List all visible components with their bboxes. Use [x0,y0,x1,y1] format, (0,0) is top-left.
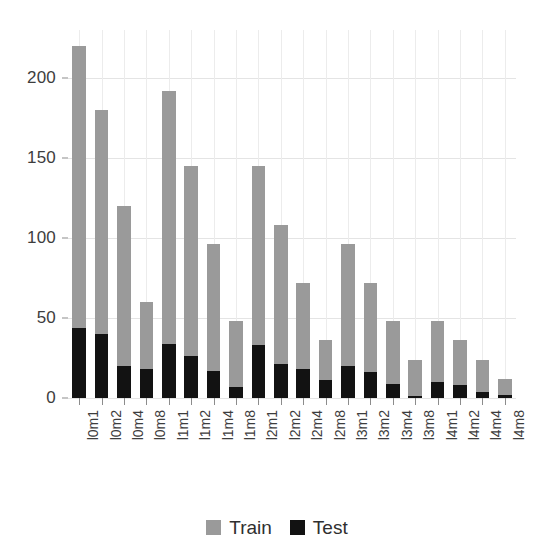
bar-segment-train-l4m1[interactable] [431,321,444,382]
y-tick-label-200: 200 [27,68,56,88]
x-tick-label-l0m1: l0m1 [85,410,101,440]
bar-segment-train-l3m2[interactable] [364,283,377,373]
x-tick-label-l4m2: l4m2 [466,410,482,440]
bar-segment-test-l0m2[interactable] [95,334,108,398]
bar-l1m2[interactable] [184,166,197,398]
bar-l0m4[interactable] [117,206,130,398]
legend-item-test[interactable]: Test [290,518,348,537]
bar-segment-test-l2m1[interactable] [252,345,265,398]
x-tick-label-l1m8: l1m8 [242,410,258,440]
x-tick-label-l0m2: l0m2 [108,410,124,440]
bar-l1m4[interactable] [207,244,220,398]
y-axis: 050100150200 [0,30,68,398]
bar-l2m8[interactable] [319,340,332,398]
bar-segment-train-l3m8[interactable] [408,360,421,397]
x-tick-mark-l3m2 [370,398,371,405]
bar-l0m2[interactable] [95,110,108,398]
y-tick-label-150: 150 [27,148,56,168]
bar-segment-test-l3m2[interactable] [364,372,377,398]
bar-segment-train-l4m4[interactable] [476,360,489,392]
bar-segment-train-l2m1[interactable] [252,166,265,345]
bar-segment-train-l1m2[interactable] [184,166,197,356]
bar-segment-train-l0m1[interactable] [72,46,85,328]
x-tick-label-l2m1: l2m1 [264,410,280,440]
bar-l3m8[interactable] [408,360,421,398]
x-tick-mark-l3m8 [415,398,416,405]
bar-l1m1[interactable] [162,91,175,398]
bar-segment-train-l3m1[interactable] [341,244,354,366]
bar-segment-train-l1m8[interactable] [229,321,242,387]
y-tick-label-50: 50 [37,308,56,328]
bar-l2m4[interactable] [296,283,309,398]
x-axis: l0m1l0m2l0m4l0m8l1m1l1m2l1m4l1m8l2m1l2m2… [68,398,516,508]
bar-segment-test-l2m4[interactable] [296,369,309,398]
x-tick-mark-l1m1 [169,398,170,405]
bar-segment-train-l3m4[interactable] [386,321,399,383]
x-tick-label-l1m2: l1m2 [197,410,213,440]
bar-segment-train-l2m8[interactable] [319,340,332,380]
plot-area [68,30,516,398]
bar-segment-test-l0m4[interactable] [117,366,130,398]
bar-segment-test-l0m8[interactable] [140,369,153,398]
bar-l0m1[interactable] [72,46,85,398]
x-tick-mark-l2m8 [326,398,327,405]
bar-l4m8[interactable] [498,379,511,398]
legend-label-train: Train [229,518,272,537]
bar-segment-test-l3m4[interactable] [386,384,399,398]
bar-l3m2[interactable] [364,283,377,398]
x-tick-label-l4m4: l4m4 [488,410,504,440]
x-tick-label-l1m1: l1m1 [175,410,191,440]
x-tick-mark-l0m4 [124,398,125,405]
x-tick-mark-l0m2 [102,398,103,405]
x-tick-mark-l3m1 [348,398,349,405]
x-tick-mark-l0m1 [79,398,80,405]
bar-segment-train-l1m4[interactable] [207,244,220,370]
bar-segment-test-l2m2[interactable] [274,364,287,398]
bar-l4m1[interactable] [431,321,444,398]
x-tick-mark-l2m1 [258,398,259,405]
bar-segment-train-l1m1[interactable] [162,91,175,344]
legend-item-train[interactable]: Train [206,518,272,537]
bar-segment-test-l4m1[interactable] [431,382,444,398]
bar-l2m2[interactable] [274,225,287,398]
x-tick-label-l4m1: l4m1 [444,410,460,440]
bar-l3m4[interactable] [386,321,399,398]
bar-segment-test-l3m1[interactable] [341,366,354,398]
x-tick-mark-l1m2 [191,398,192,405]
bar-l4m2[interactable] [453,340,466,398]
x-tick-label-l3m1: l3m1 [354,410,370,440]
x-tick-mark-l4m1 [438,398,439,405]
bar-l1m8[interactable] [229,321,242,398]
bar-segment-test-l1m4[interactable] [207,371,220,398]
stacked-bar-chart: 050100150200 l0m1l0m2l0m4l0m8l1m1l1m2l1m… [0,0,554,554]
bar-segment-test-l4m2[interactable] [453,385,466,398]
bar-l3m1[interactable] [341,244,354,398]
bar-segment-train-l0m2[interactable] [95,110,108,334]
x-tick-label-l3m8: l3m8 [421,410,437,440]
x-tick-label-l3m4: l3m4 [399,410,415,440]
bar-segment-test-l1m1[interactable] [162,344,175,398]
bar-segment-train-l0m4[interactable] [117,206,130,366]
x-tick-label-l2m4: l2m4 [309,410,325,440]
bar-segment-test-l2m8[interactable] [319,380,332,398]
bar-l2m1[interactable] [252,166,265,398]
bar-segment-train-l4m2[interactable] [453,340,466,385]
y-tick-label-0: 0 [46,388,56,408]
x-tick-mark-l4m2 [460,398,461,405]
bar-l4m4[interactable] [476,360,489,398]
x-tick-label-l1m4: l1m4 [220,410,236,440]
bar-segment-test-l1m8[interactable] [229,387,242,398]
x-tick-label-l0m8: l0m8 [152,410,168,440]
bar-segment-train-l2m4[interactable] [296,283,309,369]
train-swatch [206,520,221,535]
bar-segment-test-l1m2[interactable] [184,356,197,398]
x-tick-mark-l1m8 [236,398,237,405]
bar-l0m8[interactable] [140,302,153,398]
bar-segment-test-l0m1[interactable] [72,328,85,398]
legend-label-test: Test [313,518,348,537]
bar-segment-train-l4m8[interactable] [498,379,511,395]
bar-segment-train-l0m8[interactable] [140,302,153,369]
x-tick-mark-l3m4 [393,398,394,405]
bar-segment-train-l2m2[interactable] [274,225,287,364]
y-tick-label-100: 100 [27,228,56,248]
